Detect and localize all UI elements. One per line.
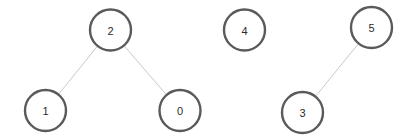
graph-edge — [58, 46, 97, 95]
node-label: 0 — [177, 105, 183, 117]
graph-node[interactable]: 1 — [25, 90, 66, 131]
graph-node[interactable]: 2 — [90, 10, 131, 51]
node-label: 3 — [299, 107, 305, 119]
graph-edge — [124, 46, 167, 95]
graph-node[interactable]: 0 — [160, 90, 201, 131]
node-label: 5 — [368, 22, 374, 34]
edge-layer — [58, 43, 358, 96]
graph-canvas: 210453 — [0, 0, 412, 139]
node-label: 1 — [42, 105, 48, 117]
graph-node[interactable]: 4 — [224, 10, 265, 51]
node-label: 2 — [107, 25, 113, 37]
graph-node[interactable]: 3 — [282, 92, 323, 133]
node-label: 4 — [241, 25, 247, 37]
graph-node[interactable]: 5 — [351, 7, 392, 48]
graph-svg: 210453 — [0, 0, 412, 139]
graph-edge — [315, 43, 358, 96]
